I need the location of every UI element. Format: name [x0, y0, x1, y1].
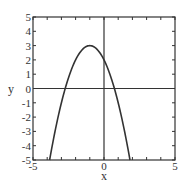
- parabola-curve: [50, 46, 130, 160]
- y-tick-label: 2: [26, 54, 32, 66]
- y-tick-label: 3: [26, 40, 32, 52]
- series-line: [50, 46, 130, 160]
- y-tick-label: 5: [26, 11, 32, 23]
- chart: -505543210-1-2-3-4-5 x y: [0, 0, 185, 190]
- y-tick-label: 0: [26, 83, 32, 95]
- tick-labels: -505543210-1-2-3-4-5: [22, 11, 178, 172]
- y-tick-label: -3: [22, 125, 32, 137]
- y-tick-label: -4: [22, 140, 32, 152]
- y-tick-label: 4: [26, 25, 32, 37]
- y-axis-label: y: [8, 82, 14, 96]
- x-axis-label: x: [101, 169, 107, 183]
- y-tick-label: -2: [22, 111, 31, 123]
- y-tick-label: -1: [22, 97, 31, 109]
- y-tick-label: -5: [22, 154, 32, 166]
- x-tick-label: 5: [172, 160, 178, 172]
- y-tick-label: 1: [26, 68, 32, 80]
